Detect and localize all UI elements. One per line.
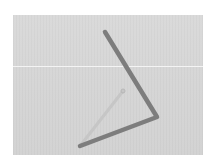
bent-rod-figure	[0, 0, 215, 164]
